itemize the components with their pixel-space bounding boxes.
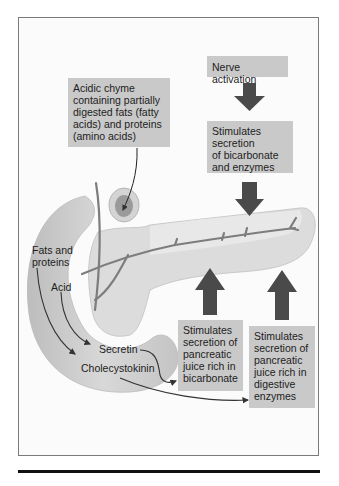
caption-rule (18, 470, 320, 473)
acid-label: Acid (51, 281, 71, 293)
down-arrow-2 (235, 182, 264, 216)
pylorus-shape (109, 188, 139, 222)
down-arrow-1 (234, 83, 265, 111)
enzymes-juice-box: Stimulates secretion of pancreatic juice… (249, 326, 315, 408)
pancreas-illustration (0, 0, 339, 486)
stimulates-bicarbonate-enzymes-box: Stimulates secretion of bicarbonate and … (207, 121, 293, 173)
secretin-label: Secretin (99, 343, 138, 355)
nerve-activation-box: Nerve activation (207, 56, 288, 77)
bicarbonate-juice-box: Stimulates secretion of pancreatic juice… (178, 320, 243, 391)
fats-proteins-label: Fats and proteins (32, 244, 73, 268)
cholecystokinin-label: Cholecystokinin (81, 362, 155, 374)
up-arrow-2 (267, 270, 297, 320)
chyme-box: Acidic chyme containing partially digest… (68, 78, 170, 147)
